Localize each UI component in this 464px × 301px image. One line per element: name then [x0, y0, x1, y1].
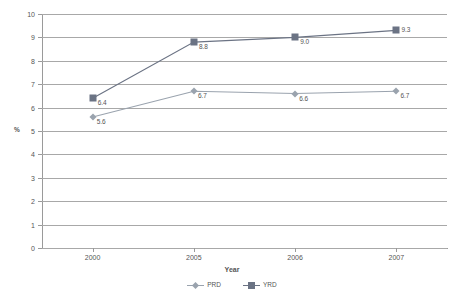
- y-tick-mark: [38, 154, 42, 155]
- plot-area: 109876543210: [42, 14, 447, 248]
- gridline: [42, 14, 447, 15]
- gridline: [42, 225, 447, 226]
- legend-label: PRD: [207, 282, 221, 289]
- y-tick-label: 1: [31, 221, 35, 228]
- y-tick-mark: [38, 225, 42, 226]
- y-tick-label: 10: [27, 11, 35, 18]
- data-label-prd-2007: 6.7: [400, 93, 409, 100]
- y-tick-label: 9: [31, 34, 35, 41]
- x-tick-mark: [93, 248, 94, 252]
- y-tick-mark: [38, 84, 42, 85]
- legend-marker-diamond-icon: [187, 281, 204, 289]
- gridline: [42, 201, 447, 202]
- data-point-yrd-2007: [393, 27, 400, 34]
- data-label-yrd-2006: 9.0: [300, 39, 309, 46]
- y-tick-mark: [38, 108, 42, 109]
- x-tick-label: 2005: [186, 254, 202, 261]
- gridline: [42, 178, 447, 179]
- data-label-yrd-2005: 8.8: [199, 44, 208, 51]
- y-tick-mark: [38, 178, 42, 179]
- y-tick-mark: [38, 201, 42, 202]
- legend-marker-square-icon: [243, 281, 260, 289]
- y-tick-label: 7: [31, 81, 35, 88]
- data-point-yrd-2006: [292, 34, 299, 41]
- x-tick-label: 2007: [389, 254, 405, 261]
- legend-item-prd[interactable]: PRD: [187, 281, 221, 289]
- y-axis-title: %: [14, 127, 20, 134]
- gridline: [42, 248, 447, 249]
- legend-swatch-shape: [192, 281, 199, 288]
- data-label-prd-2005: 6.7: [198, 93, 207, 100]
- data-point-yrd-2000: [89, 95, 96, 102]
- data-label-prd-2006: 6.6: [299, 96, 308, 103]
- data-point-yrd-2005: [190, 39, 197, 46]
- y-tick-label: 2: [31, 198, 35, 205]
- y-tick-mark: [38, 37, 42, 38]
- gridline: [42, 154, 447, 155]
- y-tick-label: 8: [31, 57, 35, 64]
- gridline: [42, 131, 447, 132]
- y-tick-label: 6: [31, 104, 35, 111]
- x-tick-label: 2006: [287, 254, 303, 261]
- y-tick-label: 0: [31, 245, 35, 252]
- y-tick-label: 5: [31, 128, 35, 135]
- gridline: [42, 37, 447, 38]
- gridline: [42, 61, 447, 62]
- gridline: [42, 108, 447, 109]
- legend-label: YRD: [263, 282, 277, 289]
- legend-swatch-shape: [248, 282, 255, 289]
- x-tick-mark: [396, 248, 397, 252]
- y-tick-label: 4: [31, 151, 35, 158]
- legend-item-yrd[interactable]: YRD: [243, 281, 277, 289]
- chart-legend: PRDYRD: [0, 281, 464, 289]
- data-label-yrd-2007: 9.3: [401, 27, 410, 34]
- y-tick-mark: [38, 14, 42, 15]
- y-tick-mark: [38, 248, 42, 249]
- x-axis-title: Year: [0, 266, 464, 273]
- x-tick-mark: [194, 248, 195, 252]
- gridline: [42, 84, 447, 85]
- y-tick-mark: [38, 131, 42, 132]
- y-tick-label: 3: [31, 174, 35, 181]
- chart-container: % 109876543210 2000200520062007 Year 5.6…: [0, 0, 464, 301]
- data-label-yrd-2000: 6.4: [98, 100, 107, 107]
- y-tick-mark: [38, 61, 42, 62]
- x-tick-label: 2000: [85, 254, 101, 261]
- data-label-prd-2000: 5.6: [97, 119, 106, 126]
- x-tick-mark: [295, 248, 296, 252]
